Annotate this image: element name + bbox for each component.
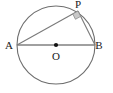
center-point-dot (54, 43, 58, 47)
chord-segment-ap (17, 11, 78, 45)
vertex-label-o: O (52, 51, 60, 62)
right-angle-marker-icon (73, 11, 81, 19)
geometry-figure: A B P O (0, 0, 113, 93)
vertex-label-b: B (95, 40, 102, 51)
vertex-label-p: P (75, 0, 81, 10)
vertex-label-a: A (5, 40, 13, 51)
